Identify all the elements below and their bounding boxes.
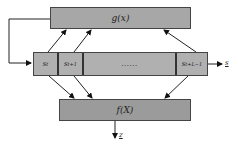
sequence-output-label: s: [225, 59, 229, 67]
cell-s-t-plus-1: st+1: [59, 53, 84, 75]
z-output-label: z: [119, 131, 123, 139]
g-function-block: g(x): [50, 7, 191, 29]
arrow-st1-to-g: [74, 30, 91, 52]
sequence-block: st st+1 ...... st+L−1: [33, 52, 208, 76]
cell-s-t: st: [34, 53, 59, 75]
arrow-stl-to-f: [165, 76, 188, 98]
arrow-stl-to-g: [164, 30, 196, 52]
arrow-st-to-f: [49, 76, 74, 98]
arrow-st1-to-f: [74, 76, 92, 98]
f-function-block: f(X): [59, 99, 191, 121]
f-function-label: f(X): [117, 105, 134, 115]
cell-ellipsis: ......: [84, 53, 177, 75]
g-function-label: g(x): [112, 13, 130, 23]
arrow-st-to-g: [48, 30, 66, 52]
cell-s-t-plus-L-minus-1: st+L−1: [177, 53, 207, 75]
